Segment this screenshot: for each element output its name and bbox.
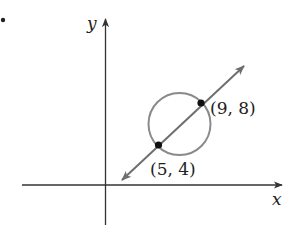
x-axis-label: x xyxy=(272,189,282,209)
bullet-icon xyxy=(1,18,5,22)
point-label-9-8: (9, 8) xyxy=(210,98,256,118)
point-5-4 xyxy=(155,141,162,148)
point-9-8 xyxy=(197,99,204,106)
diagram-canvas: x y (9, 8) (5, 4) xyxy=(0,0,293,241)
point-label-5-4: (5, 4) xyxy=(150,159,196,179)
y-axis-label: y xyxy=(86,13,97,33)
